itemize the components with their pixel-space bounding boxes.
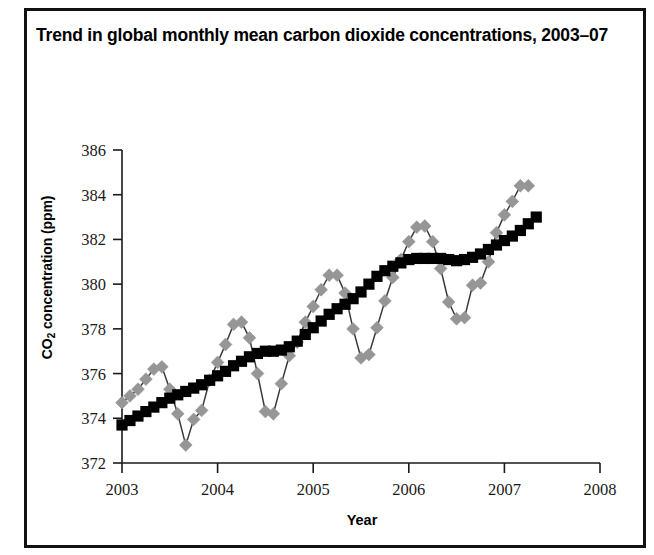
x-tick-label: 2005: [297, 480, 330, 499]
chart-svg: 372374376378380382384386 200320042005200…: [0, 0, 654, 555]
data-series-layer: [116, 179, 542, 451]
data-marker-diamond: [442, 296, 455, 309]
y-axis-label-text: CO2 concentration (ppm): [39, 196, 55, 360]
data-marker-diamond: [371, 321, 384, 334]
data-marker-diamond: [347, 322, 360, 335]
data-marker-diamond: [379, 295, 392, 308]
data-marker-diamond: [506, 195, 519, 208]
data-marker-diamond: [275, 377, 288, 390]
figure-container: Trend in global monthly mean carbon diox…: [0, 0, 654, 555]
data-marker-diamond: [171, 407, 184, 420]
data-marker-diamond: [402, 235, 415, 248]
data-marker-diamond: [522, 179, 535, 192]
x-axis-ticks: 200320042005200620072008: [106, 463, 617, 499]
data-marker-diamond: [251, 367, 264, 380]
data-marker-diamond: [243, 331, 256, 344]
plot-area: 372374376378380382384386 200320042005200…: [0, 0, 654, 555]
y-tick-label: 372: [81, 454, 106, 473]
y-axis-ticks: 372374376378380382384386: [81, 141, 122, 473]
series-trend: [116, 211, 541, 430]
y-tick-label: 374: [81, 409, 106, 428]
data-marker-diamond: [219, 338, 232, 351]
data-marker-diamond: [426, 235, 439, 248]
data-marker-diamond: [315, 283, 328, 296]
y-tick-label: 386: [81, 141, 106, 160]
y-tick-label: 384: [81, 186, 106, 205]
x-tick-label: 2003: [106, 480, 139, 499]
x-tick-label: 2004: [201, 480, 234, 499]
y-tick-label: 378: [81, 320, 106, 339]
x-tick-label: 2006: [392, 480, 425, 499]
y-tick-label: 376: [81, 365, 106, 384]
data-marker-diamond: [331, 269, 344, 282]
y-tick-label: 380: [81, 275, 106, 294]
x-axis-label: Year: [122, 512, 602, 528]
data-marker-diamond: [498, 208, 511, 221]
y-axis-label: CO2 concentration (ppm): [39, 167, 58, 387]
data-marker-square: [531, 211, 542, 222]
data-marker-diamond: [179, 439, 192, 452]
data-marker-diamond: [307, 300, 320, 313]
y-tick-label: 382: [81, 230, 106, 249]
x-tick-label: 2008: [584, 480, 617, 499]
data-marker-diamond: [418, 220, 431, 233]
x-tick-label: 2007: [488, 480, 521, 499]
